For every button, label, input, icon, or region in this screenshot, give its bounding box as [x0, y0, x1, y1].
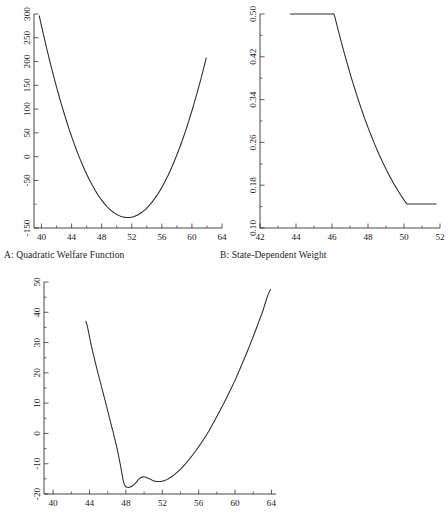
x-tick-label: 48 — [363, 232, 373, 242]
axis-spines — [44, 282, 276, 494]
y-tick-label: 50 — [22, 128, 32, 138]
x-tick-label: 60 — [187, 232, 197, 242]
y-tick-label: -50 — [22, 174, 32, 187]
y-tick-label: 0.18 — [248, 177, 258, 193]
y-tick-label: 0 — [22, 154, 32, 159]
y-tick-label: 10 — [32, 398, 42, 408]
y-tick-label: -150 — [22, 219, 32, 236]
x-tick-label: 44 — [291, 232, 301, 242]
x-tick-label: 52 — [127, 232, 137, 242]
axis-spines — [260, 14, 440, 228]
chart-panel-b: 4244464850520.100.180.260.340.420.50 — [216, 0, 448, 248]
panel-a-caption: A: Quadratic Welfare Function — [4, 250, 124, 260]
y-tick-label: 200 — [22, 54, 32, 68]
x-tick-label: 46 — [327, 232, 337, 242]
x-tick-label: 50 — [399, 232, 409, 242]
y-tick-label: 0.26 — [248, 134, 258, 150]
y-tick-label: 0.42 — [248, 48, 258, 64]
chart-panel-c: 40444852566064-20-1001020304050 — [0, 268, 300, 518]
data-curve — [86, 290, 271, 488]
y-tick-label: 30 — [32, 338, 42, 348]
x-tick-label: 40 — [49, 498, 59, 508]
x-tick-label: 64 — [267, 498, 277, 508]
figure-root: 40444852566064-150-50050100150200250300 … — [0, 0, 448, 526]
y-tick-label: -10 — [32, 457, 42, 470]
panel-b-plot: 4244464850520.100.180.260.340.420.50 — [216, 0, 448, 248]
y-tick-label: 0.34 — [248, 91, 258, 107]
y-tick-label: 40 — [32, 307, 42, 317]
panel-a-plot: 40444852566064-150-50050100150200250300 — [0, 0, 232, 248]
y-tick-label: 100 — [22, 102, 32, 116]
x-tick-label: 56 — [194, 498, 204, 508]
x-tick-label: 48 — [121, 498, 131, 508]
x-tick-label: 52 — [158, 498, 168, 508]
y-tick-label: -20 — [32, 487, 42, 500]
y-tick-label: 250 — [22, 30, 32, 44]
y-tick-label: 0 — [32, 431, 42, 436]
axis-spines — [34, 14, 222, 228]
y-tick-label: 150 — [22, 78, 32, 92]
x-tick-label: 44 — [85, 498, 95, 508]
data-curve — [39, 16, 206, 218]
panel-c-plot: 40444852566064-20-1001020304050 — [0, 268, 300, 518]
y-tick-label: 50 — [32, 277, 42, 287]
x-tick-label: 44 — [67, 232, 77, 242]
panel-b-caption: B: State-Dependent Weight — [220, 250, 327, 260]
y-tick-label: 300 — [22, 7, 32, 21]
chart-panel-a: 40444852566064-150-50050100150200250300 — [0, 0, 232, 248]
x-tick-label: 48 — [97, 232, 107, 242]
x-tick-label: 56 — [157, 232, 167, 242]
x-tick-label: 40 — [37, 232, 47, 242]
y-tick-label: 20 — [32, 368, 42, 378]
y-tick-label: 0.50 — [248, 6, 258, 22]
x-tick-label: 52 — [435, 232, 445, 242]
data-curve — [291, 14, 436, 204]
y-tick-label: 0.10 — [248, 220, 258, 236]
x-tick-label: 60 — [230, 498, 240, 508]
